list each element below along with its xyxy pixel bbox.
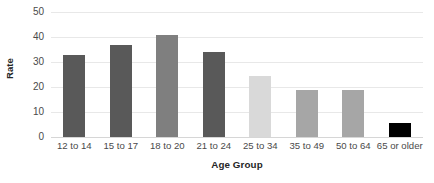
y-axis-title-text: Rate [4,58,15,79]
y-axis-tick-labels: 01020304050 [18,0,48,145]
bar[interactable] [296,90,318,138]
bar[interactable] [203,52,225,137]
x-axis-tick-label: 50 to 64 [330,139,377,152]
bar[interactable] [156,35,178,138]
y-axis-title: Rate [0,0,18,137]
x-axis-tick-label: 35 to 49 [284,139,331,152]
bar-chart: Rate 01020304050 12 to 1415 to 1718 to 2… [0,0,434,183]
bar[interactable] [342,90,364,137]
x-axis-tick-label: 65 or older [377,139,424,152]
bar[interactable] [63,55,85,138]
bar-slot [237,12,284,137]
bar-slot [191,12,238,137]
y-axis-tick-label: 20 [33,82,44,92]
bar[interactable] [249,76,271,137]
bar[interactable] [110,45,132,138]
x-axis-tick-label: 15 to 17 [98,139,145,152]
bar-slot [98,12,145,137]
y-axis-tick-label: 50 [33,7,44,17]
bar-slot [144,12,191,137]
x-axis-tick-label: 25 to 34 [237,139,284,152]
bar-slot [330,12,377,137]
x-axis-tick-label: 18 to 20 [144,139,191,152]
x-axis-tick-labels: 12 to 1415 to 1718 to 2021 to 2425 to 34… [51,139,423,155]
x-axis-tick-label: 21 to 24 [191,139,238,152]
gridline [51,137,423,138]
bar-slot [284,12,331,137]
x-axis-tick-label: 12 to 14 [51,139,98,152]
y-axis-tick-label: 10 [33,107,44,117]
bars-layer [51,12,423,137]
y-axis-tick-label: 0 [38,132,44,142]
x-axis-title: Age Group [51,159,423,170]
bar-slot [51,12,98,137]
bar[interactable] [389,123,411,137]
bar-slot [377,12,424,137]
y-axis-tick-label: 40 [33,32,44,42]
y-axis-tick-label: 30 [33,57,44,67]
plot-area [51,12,423,137]
